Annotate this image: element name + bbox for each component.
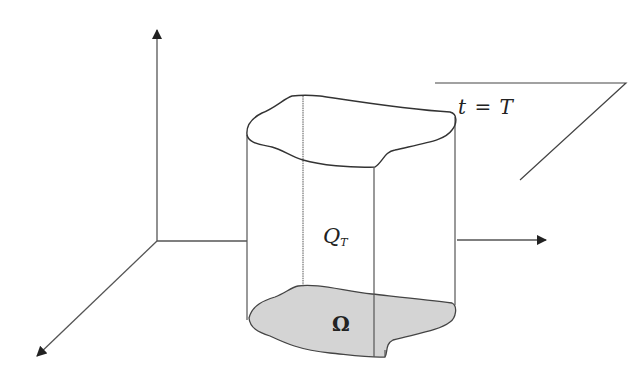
cylinder-top-lid [247, 95, 456, 167]
cylinder-label-main: Q [323, 224, 340, 248]
domain-label: Ω [332, 312, 350, 336]
time-plane-label: t = T [458, 95, 514, 119]
depth-axis [37, 241, 157, 356]
diagram-canvas [0, 0, 643, 377]
cylinder-label-subscript: T [340, 236, 347, 249]
cylinder-label: QT [323, 224, 348, 249]
domain-omega-region [249, 285, 456, 357]
